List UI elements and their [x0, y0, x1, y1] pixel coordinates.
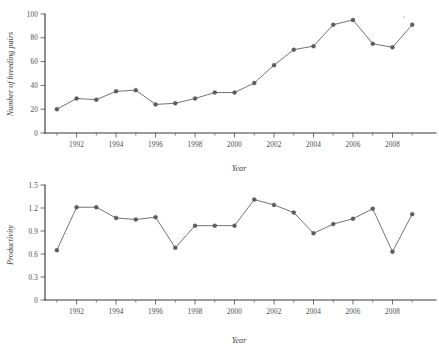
data-point — [134, 88, 138, 92]
x-tick-label: 1996 — [148, 141, 163, 149]
x-tick-label: 2006 — [345, 141, 360, 149]
x-tick-label: 1994 — [109, 308, 124, 316]
data-point — [213, 224, 217, 228]
data-point — [154, 102, 158, 106]
x-tick-label: 1992 — [69, 141, 84, 149]
x-tick-label: 2000 — [227, 141, 242, 149]
data-point — [410, 23, 414, 27]
chart-panel-breeding-pairs: 020406080100 199219941996199820002002200… — [0, 0, 439, 175]
data-point — [213, 91, 217, 95]
x-tick-label: 2004 — [306, 141, 321, 149]
data-point — [331, 23, 335, 27]
productivity-plot: 00.30.60.91.21.5 19921994199619982000200… — [0, 170, 439, 348]
data-point — [371, 207, 375, 211]
x-tick-label: 2002 — [267, 141, 282, 149]
data-point — [371, 42, 375, 46]
data-point — [75, 96, 79, 100]
x-axis-tick-labels-breeding-pairs: 199219941996199820002002200420062008 — [69, 141, 400, 149]
x-axis-ticks-breeding-pairs — [57, 133, 412, 138]
data-point — [55, 248, 59, 252]
data-point — [114, 89, 118, 93]
y-tick-label: 1.5 — [29, 182, 39, 190]
data-markers-breeding-pairs — [55, 18, 414, 111]
data-point — [292, 211, 296, 215]
y-axis-tick-labels-breeding-pairs: 020406080100 — [27, 11, 38, 138]
data-point — [252, 81, 256, 85]
y-tick-label: 0.3 — [29, 274, 39, 282]
y-axis-ticks-breeding-pairs — [41, 14, 46, 133]
data-point — [55, 107, 59, 111]
data-point — [331, 222, 335, 226]
data-point — [154, 215, 158, 219]
data-point — [410, 212, 414, 216]
data-point — [351, 18, 355, 22]
y-axis-title-breeding-pairs: Number of breeding pairs — [6, 32, 15, 118]
data-point — [252, 198, 256, 202]
data-point — [390, 250, 394, 254]
data-point — [173, 246, 177, 250]
x-tick-label: 2004 — [306, 308, 321, 316]
scan-speck — [403, 16, 405, 18]
two-panel-line-chart-figure: 020406080100 199219941996199820002002200… — [0, 0, 439, 348]
y-tick-label: 40 — [31, 82, 39, 90]
data-point — [351, 217, 355, 221]
y-tick-label: 0.6 — [29, 251, 39, 259]
x-tick-label: 1998 — [188, 308, 203, 316]
data-point — [311, 44, 315, 48]
y-tick-label: 0 — [34, 130, 38, 138]
data-point — [114, 216, 118, 220]
data-point — [94, 205, 98, 209]
data-markers-productivity — [55, 198, 414, 254]
y-tick-label: 0 — [34, 297, 38, 305]
data-point — [134, 218, 138, 222]
data-point — [233, 224, 237, 228]
y-axis-ticks-productivity — [41, 185, 46, 300]
x-axis-tick-labels-productivity: 199219941996199820002002200420062008 — [69, 308, 400, 316]
data-line-breeding-pairs — [57, 20, 412, 109]
y-tick-label: 0.9 — [29, 228, 39, 236]
x-tick-label: 2002 — [267, 308, 282, 316]
data-point — [390, 45, 394, 49]
x-axis-title-productivity: Year — [232, 336, 248, 345]
data-point — [272, 203, 276, 207]
data-point — [75, 205, 79, 209]
x-tick-label: 1998 — [188, 141, 203, 149]
x-tick-label: 1994 — [109, 141, 124, 149]
breeding-pairs-plot: 020406080100 199219941996199820002002200… — [0, 0, 439, 175]
data-point — [233, 91, 237, 95]
y-tick-label: 20 — [31, 106, 39, 114]
y-tick-label: 1.2 — [29, 205, 39, 213]
y-tick-label: 100 — [27, 11, 38, 19]
chart-panel-productivity: 00.30.60.91.21.5 19921994199619982000200… — [0, 170, 439, 348]
data-point — [272, 63, 276, 67]
y-tick-label: 80 — [31, 34, 39, 42]
x-tick-label: 1996 — [148, 308, 163, 316]
y-tick-label: 60 — [31, 58, 39, 66]
y-axis-title-productivity: Productivity — [6, 225, 15, 267]
data-point — [173, 101, 177, 105]
x-axis-ticks-productivity — [57, 300, 412, 305]
x-tick-label: 1992 — [69, 308, 84, 316]
data-point — [292, 48, 296, 52]
data-point — [193, 224, 197, 228]
x-tick-label: 2000 — [227, 308, 242, 316]
data-point — [193, 96, 197, 100]
y-axis-tick-labels-productivity: 00.30.60.91.21.5 — [29, 182, 39, 305]
x-tick-label: 2008 — [385, 141, 400, 149]
x-tick-label: 2008 — [385, 308, 400, 316]
x-tick-label: 2006 — [345, 308, 360, 316]
data-point — [311, 231, 315, 235]
data-point — [94, 98, 98, 102]
